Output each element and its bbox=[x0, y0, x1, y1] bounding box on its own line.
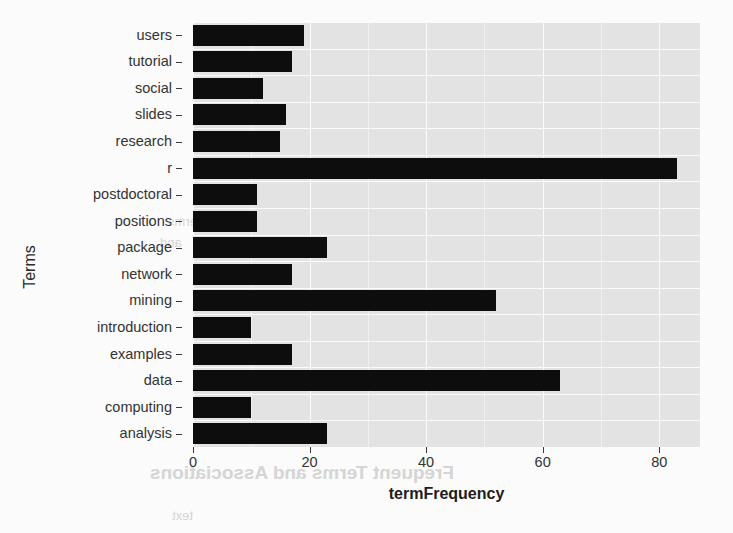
gridline-y bbox=[193, 235, 700, 236]
y-tick-label: network bbox=[121, 264, 172, 285]
gridline-y bbox=[193, 22, 700, 23]
x-tick-mark bbox=[193, 447, 194, 453]
y-tick-label: positions bbox=[115, 211, 172, 232]
y-tick-label: data bbox=[144, 370, 172, 391]
bar bbox=[193, 25, 304, 46]
x-tick-mark bbox=[543, 447, 544, 453]
y-tick-label: computing bbox=[105, 397, 172, 418]
bar bbox=[193, 397, 251, 418]
gridline-y bbox=[193, 128, 700, 129]
y-axis-tick-labels: userstutorialsocialslidesresearchrpostdo… bbox=[0, 22, 186, 447]
bar bbox=[193, 184, 257, 205]
bar bbox=[193, 237, 327, 258]
gridline-y bbox=[193, 181, 700, 182]
plot-panel bbox=[193, 22, 700, 447]
x-tick-label: 80 bbox=[651, 454, 667, 470]
bar-chart: Terms userstutorialsocialslidesresearchr… bbox=[0, 0, 733, 533]
x-tick-label: 60 bbox=[535, 454, 551, 470]
bar bbox=[193, 211, 257, 232]
bar bbox=[193, 78, 263, 99]
y-tick-mark bbox=[176, 115, 182, 116]
bar bbox=[193, 104, 286, 125]
gridline-y bbox=[193, 341, 700, 342]
x-tick-label: 40 bbox=[418, 454, 434, 470]
gridline-y bbox=[193, 288, 700, 289]
y-tick-label: social bbox=[135, 78, 172, 99]
bar bbox=[193, 158, 677, 179]
y-tick-mark bbox=[176, 195, 182, 196]
y-tick-mark bbox=[176, 248, 182, 249]
gridline-y bbox=[193, 314, 700, 315]
y-tick-label: tutorial bbox=[128, 51, 172, 72]
y-tick-label: research bbox=[116, 131, 172, 152]
x-tick-mark bbox=[659, 447, 660, 453]
x-tick-label: 0 bbox=[189, 454, 197, 470]
y-tick-label: postdoctoral bbox=[93, 184, 172, 205]
y-tick-label: examples bbox=[110, 344, 172, 365]
x-tick-mark bbox=[426, 447, 427, 453]
bar bbox=[193, 290, 496, 311]
gridline-y bbox=[193, 420, 700, 421]
y-tick-label: users bbox=[137, 25, 172, 46]
y-tick-mark bbox=[176, 301, 182, 302]
gridline-y bbox=[193, 49, 700, 50]
gridline-y bbox=[193, 102, 700, 103]
y-tick-mark bbox=[176, 35, 182, 36]
y-tick-mark bbox=[176, 407, 182, 408]
y-tick-mark bbox=[176, 221, 182, 222]
gridline-y bbox=[193, 367, 700, 368]
y-tick-mark bbox=[176, 434, 182, 435]
gridline-y bbox=[193, 394, 700, 395]
y-tick-label: introduction bbox=[97, 317, 172, 338]
x-tick-label: 20 bbox=[301, 454, 317, 470]
y-tick-label: mining bbox=[129, 290, 172, 311]
y-tick-label: package bbox=[117, 237, 172, 258]
bar bbox=[193, 131, 280, 152]
x-axis: 020406080 bbox=[193, 447, 700, 477]
x-axis-title: termFrequency bbox=[193, 485, 700, 503]
gridline-y bbox=[193, 208, 700, 209]
y-tick-mark bbox=[176, 354, 182, 355]
y-tick-mark bbox=[176, 142, 182, 143]
bar bbox=[193, 317, 251, 338]
bar bbox=[193, 423, 327, 444]
y-tick-label: slides bbox=[135, 104, 172, 125]
bar bbox=[193, 344, 292, 365]
y-tick-mark bbox=[176, 168, 182, 169]
gridline-y bbox=[193, 261, 700, 262]
y-tick-mark bbox=[176, 88, 182, 89]
gridline-y bbox=[193, 75, 700, 76]
gridline-y bbox=[193, 155, 700, 156]
y-tick-label: analysis bbox=[120, 423, 172, 444]
bar bbox=[193, 264, 292, 285]
y-tick-mark bbox=[176, 274, 182, 275]
y-tick-mark bbox=[176, 327, 182, 328]
y-tick-mark bbox=[176, 62, 182, 63]
bar bbox=[193, 370, 560, 391]
x-tick-mark bbox=[310, 447, 311, 453]
y-tick-label: r bbox=[167, 158, 172, 179]
y-tick-mark bbox=[176, 381, 182, 382]
bar bbox=[193, 51, 292, 72]
